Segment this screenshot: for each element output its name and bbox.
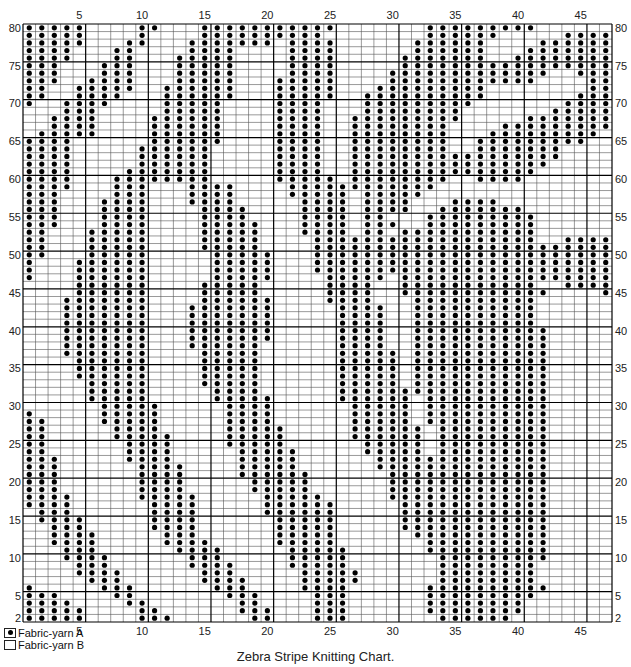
svg-text:15: 15 [9, 514, 21, 526]
svg-text:50: 50 [615, 249, 627, 261]
svg-text:10: 10 [9, 552, 21, 564]
y-axis-labels-left: 80757065605550454035302520151052 [9, 22, 21, 624]
svg-text:55: 55 [615, 211, 627, 223]
svg-text:35: 35 [615, 362, 627, 374]
svg-text:35: 35 [449, 9, 461, 21]
svg-text:25: 25 [324, 9, 336, 21]
chart-caption: Zebra Stripe Knitting Chart. [0, 649, 631, 664]
svg-text:25: 25 [324, 625, 336, 637]
stitch-dots [27, 25, 609, 621]
svg-text:65: 65 [615, 135, 627, 147]
grid-minor-lines [23, 24, 612, 622]
svg-text:10: 10 [136, 9, 148, 21]
svg-text:75: 75 [9, 60, 21, 72]
svg-text:60: 60 [9, 173, 21, 185]
svg-text:10: 10 [136, 625, 148, 637]
svg-text:50: 50 [9, 249, 21, 261]
svg-text:15: 15 [199, 9, 211, 21]
legend: Fabric-yarn A Fabric-yarn B [4, 627, 84, 651]
svg-text:60: 60 [615, 173, 627, 185]
svg-text:20: 20 [9, 476, 21, 488]
svg-text:20: 20 [261, 9, 273, 21]
svg-text:80: 80 [9, 22, 21, 34]
x-axis-labels-top: 51015202530354045 [76, 9, 586, 21]
svg-text:30: 30 [615, 400, 627, 412]
filled-dot-icon [4, 628, 16, 638]
svg-text:70: 70 [9, 97, 21, 109]
svg-text:45: 45 [615, 287, 627, 299]
svg-text:20: 20 [615, 476, 627, 488]
y-axis-labels-right: 80757065605550454035302520151052 [615, 22, 627, 624]
svg-text:15: 15 [615, 514, 627, 526]
svg-text:30: 30 [387, 9, 399, 21]
svg-text:20: 20 [261, 625, 273, 637]
svg-text:30: 30 [9, 400, 21, 412]
svg-text:30: 30 [387, 625, 399, 637]
grid-major-lines [23, 24, 612, 622]
svg-text:40: 40 [615, 325, 627, 337]
svg-text:10: 10 [615, 552, 627, 564]
legend-label: Fabric-yarn A [18, 627, 83, 639]
svg-text:2: 2 [15, 612, 21, 624]
svg-text:15: 15 [199, 625, 211, 637]
svg-text:25: 25 [9, 438, 21, 450]
svg-text:5: 5 [76, 9, 82, 21]
svg-text:40: 40 [512, 9, 524, 21]
x-axis-labels-bottom: 51015202530354045 [76, 625, 586, 637]
svg-text:40: 40 [9, 325, 21, 337]
svg-text:2: 2 [615, 612, 621, 624]
svg-text:25: 25 [615, 438, 627, 450]
svg-text:75: 75 [615, 60, 627, 72]
legend-item-yarn-a: Fabric-yarn A [4, 627, 84, 639]
svg-text:45: 45 [575, 625, 587, 637]
knitting-chart: 51015202530354045 51015202530354045 8075… [0, 0, 631, 667]
svg-text:40: 40 [512, 625, 524, 637]
svg-text:35: 35 [449, 625, 461, 637]
svg-text:55: 55 [9, 211, 21, 223]
svg-text:65: 65 [9, 135, 21, 147]
svg-text:45: 45 [9, 287, 21, 299]
svg-text:80: 80 [615, 22, 627, 34]
svg-text:35: 35 [9, 362, 21, 374]
svg-text:5: 5 [15, 590, 21, 602]
svg-text:45: 45 [575, 9, 587, 21]
svg-text:5: 5 [615, 590, 621, 602]
svg-text:70: 70 [615, 97, 627, 109]
